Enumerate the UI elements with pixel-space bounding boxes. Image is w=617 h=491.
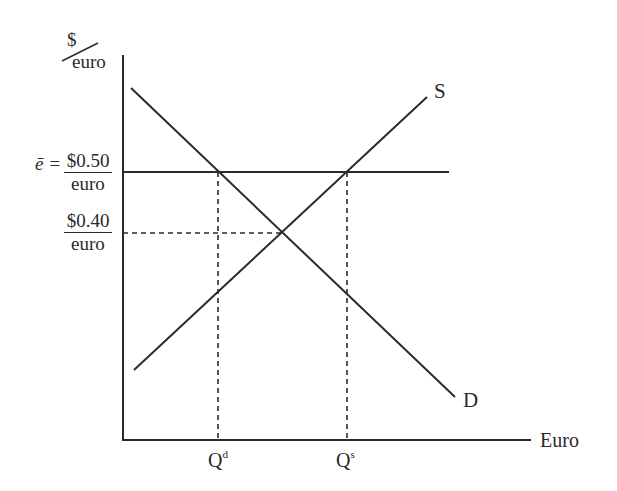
quantity-supplied-label: Qs — [336, 449, 355, 470]
equilibrium-price-unit: euro — [64, 233, 112, 253]
y-axis-label-numerator: $ — [67, 30, 77, 49]
demand-curve-label: D — [463, 390, 478, 411]
fixed-rate-label: $0.50 euro — [64, 151, 112, 193]
quantity-demanded-sup: d — [222, 448, 228, 460]
x-axis-label: Euro — [540, 430, 579, 450]
equilibrium-price-value: $0.40 — [64, 211, 112, 233]
quantity-demanded-base: Q — [208, 449, 222, 471]
fixed-rate-value: $0.50 — [64, 151, 112, 173]
fixed-rate-unit: euro — [64, 173, 112, 193]
demand-curve — [131, 88, 455, 397]
quantity-supplied-sup: s — [350, 448, 354, 460]
quantity-demanded-label: Qd — [208, 449, 228, 470]
supply-curve-label: S — [434, 81, 446, 102]
fixed-rate-prefix: ē = — [35, 154, 61, 173]
quantity-supplied-base: Q — [336, 449, 350, 471]
equilibrium-price-label: $0.40 euro — [64, 211, 112, 253]
y-axis-label-denominator: euro — [72, 52, 106, 71]
